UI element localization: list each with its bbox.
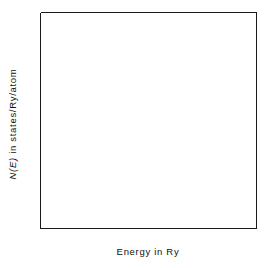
axes (41, 13, 257, 229)
y-axis-title: N(E) in states/Ry/atom (7, 69, 18, 180)
chart-figure: Energy in Ry N(E) in states/Ry/atom (0, 0, 276, 268)
x-axis-title: Energy in Ry (117, 246, 180, 257)
dos-line-chart: Energy in Ry N(E) in states/Ry/atom (0, 0, 276, 268)
y-axis-title-symbol: N(E) (7, 157, 18, 179)
y-axis-title-rest: in states/Ry/atom (7, 69, 18, 158)
plot-frame (41, 13, 257, 229)
